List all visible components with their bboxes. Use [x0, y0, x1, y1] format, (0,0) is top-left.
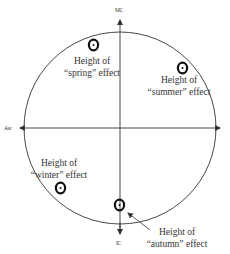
mc-label: MC	[115, 7, 123, 13]
chart-circle-axes	[0, 0, 230, 254]
summer-sun-icon	[176, 61, 189, 75]
seasonal-effects-diagram: MC Asc IC Height of “spring” effect Heig…	[0, 0, 230, 254]
winter-sun-icon	[54, 181, 67, 195]
autumn-sun-icon	[113, 198, 126, 212]
spring-effect-label: Height of “spring” effect	[62, 55, 122, 79]
summer-effect-label: Height of “summer” effect	[146, 74, 212, 98]
ic-label: IC	[116, 240, 121, 246]
asc-label: Asc	[4, 125, 12, 131]
autumn-effect-label: Height of “autumn” effect	[144, 226, 210, 250]
spring-sun-icon	[87, 38, 100, 52]
winter-effect-label: Height of “winter” effect	[26, 157, 92, 181]
